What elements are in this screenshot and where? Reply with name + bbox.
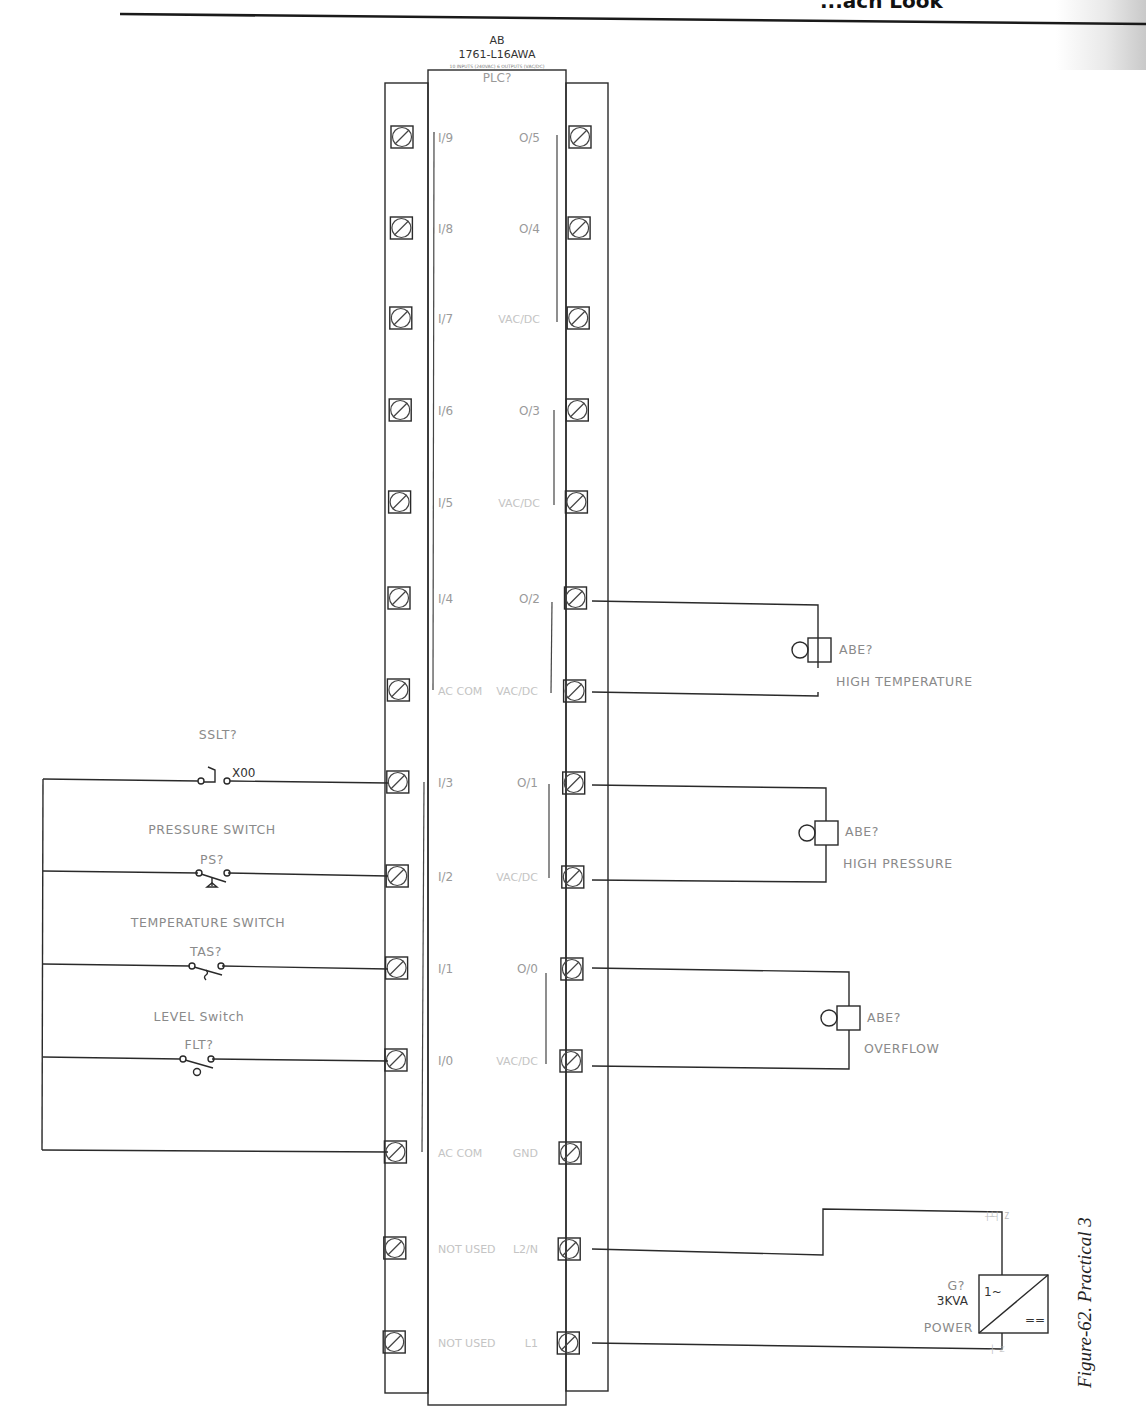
selector-switch-icon <box>204 767 215 782</box>
right-terminal-screw-icon <box>566 399 588 421</box>
input-temperature-switch: TEMPERATURE SWITCH TAS? <box>130 915 286 980</box>
output-overflow: ABE? OVERFLOW <box>592 968 939 1069</box>
left-terminal-screw-icon <box>391 126 413 148</box>
output-pin-label: O/3 <box>519 404 540 418</box>
pressure-switch-title: PRESSURE SWITCH <box>148 822 276 837</box>
alarm-tag: ABE? <box>845 824 879 839</box>
output-pin-label: VAC/DC <box>496 685 538 698</box>
figure-caption: Figure-62. Practical 3 <box>1074 1217 1095 1389</box>
right-terminal-screw-icon <box>559 1142 581 1164</box>
input-pin-label: I/1 <box>438 962 453 976</box>
terminals: I/9O/5I/8O/4I/7VAC/DCI/6O/3I/5VAC/DCI/4O… <box>383 126 591 1354</box>
input-pin-label: I/8 <box>438 222 453 236</box>
left-terminal-screw-icon <box>386 865 408 887</box>
left-terminal-screw-icon <box>388 587 410 609</box>
alarm-tag: ABE? <box>867 1010 901 1025</box>
input-pin-label: NOT USED <box>438 1337 496 1350</box>
input-pin-label: I/6 <box>438 404 453 418</box>
output-pin-label: VAC/DC <box>496 1055 538 1068</box>
ac-com-wire <box>42 1150 388 1152</box>
alarm-box-icon <box>837 1006 860 1030</box>
temperature-switch-tag: TAS? <box>189 944 222 959</box>
right-terminal-screw-icon <box>569 126 591 148</box>
power-supply: 1~ == G? 3KVA POWER ┼┴┤ Z ┼ ℤ <box>592 1209 1048 1354</box>
input-pin-label: I/9 <box>438 131 453 145</box>
temperature-switch-icon <box>194 967 222 975</box>
output-pin-label: O/1 <box>517 776 538 790</box>
input-pin-label: I/0 <box>438 1054 453 1068</box>
output-pin-label: O/0 <box>517 962 538 976</box>
alarm-label: HIGH PRESSURE <box>843 856 953 871</box>
alarm-label: HIGH TEMPERATURE <box>836 674 973 689</box>
power-tag: G? <box>947 1278 965 1293</box>
output-pin-label: L1 <box>525 1337 538 1350</box>
alarm-box-icon <box>815 821 838 845</box>
input-pressure-switch: PRESSURE SWITCH PS? <box>148 822 276 887</box>
plc-model: 1761-L16AWA <box>459 48 536 61</box>
ac-symbol: 1~ <box>984 1285 1002 1299</box>
plc-brand: AB <box>489 34 504 47</box>
left-terminal-screw-icon <box>389 491 411 513</box>
right-terminal-screw-icon <box>565 587 587 609</box>
level-switch-title: LEVEL Switch <box>154 1009 245 1024</box>
alarm-label: OVERFLOW <box>864 1041 939 1056</box>
plc-wiring-diagram: ...ach Look AB 1761-L16AWA 10 INPUTS (24… <box>0 0 1146 1423</box>
output-pin-label: VAC/DC <box>498 313 540 326</box>
terminal-mark-top: ┼┴┤ Z <box>984 1211 1009 1221</box>
right-terminal-screw-icon <box>564 680 586 702</box>
left-terminal-screw-icon <box>390 307 412 329</box>
right-terminal-screw-icon <box>567 307 589 329</box>
selector-switch-title: SSLT? <box>199 727 237 742</box>
input-pin-label: I/5 <box>438 496 453 510</box>
temperature-switch-title: TEMPERATURE SWITCH <box>130 915 286 930</box>
left-terminal-screw-icon <box>387 679 409 701</box>
plc-body <box>385 70 608 1405</box>
level-switch-tag: FLT? <box>184 1037 213 1052</box>
left-terminal-screw-icon <box>383 1331 405 1353</box>
input-bus-lower <box>422 782 424 1152</box>
output-high-pressure: ABE? HIGH PRESSURE <box>592 785 953 882</box>
alarm-lamp-icon <box>799 825 815 841</box>
output-pin-label: O/5 <box>519 131 540 145</box>
terminal-mark-bottom: ┼ ℤ <box>989 1344 1005 1354</box>
output-pin-label: VAC/DC <box>496 871 538 884</box>
pressure-switch-tag: PS? <box>200 852 224 867</box>
alarm-box-icon <box>808 638 831 662</box>
right-terminal-strip <box>566 83 608 1391</box>
plc-description: 10 INPUTS (240VAC) 6 OUTPUTS (VAC/DC) <box>450 64 545 69</box>
plc-header: AB 1761-L16AWA 10 INPUTS (240VAC) 6 OUTP… <box>450 34 545 85</box>
output-pin-label: GND <box>513 1147 538 1160</box>
power-rating: 3KVA <box>937 1294 969 1308</box>
input-pin-label: I/3 <box>438 776 453 790</box>
input-pin-label: I/4 <box>438 592 453 606</box>
right-terminal-screw-icon <box>561 958 583 980</box>
output-bus-02 <box>551 602 552 693</box>
alarm-tag: ABE? <box>839 642 873 657</box>
output-pin-label: O/4 <box>519 222 540 236</box>
left-terminal-screw-icon <box>387 771 409 793</box>
alarm-lamp-icon <box>792 642 808 658</box>
pressure-switch-icon <box>201 874 226 882</box>
right-terminal-screw-icon <box>568 217 590 239</box>
header-fragment: ...ach Look <box>820 0 944 13</box>
left-terminal-strip <box>385 83 428 1393</box>
left-terminal-screw-icon <box>384 1237 406 1259</box>
right-terminal-screw-icon <box>560 1050 582 1072</box>
right-terminal-screw-icon <box>558 1238 580 1260</box>
left-terminal-screw-icon <box>390 217 412 239</box>
left-terminal-screw-icon <box>385 1049 407 1071</box>
right-terminal-screw-icon <box>562 866 584 888</box>
right-terminal-screw-icon <box>557 1332 579 1354</box>
output-pin-label: VAC/DC <box>498 497 540 510</box>
input-level-switch: LEVEL Switch FLT? <box>154 1009 245 1076</box>
output-high-temperature: ABE? HIGH TEMPERATURE <box>592 601 973 696</box>
header-rule <box>120 14 1146 24</box>
input-pin-label: I/7 <box>438 312 453 326</box>
output-pin-label: O/2 <box>519 592 540 606</box>
left-terminal-screw-icon <box>386 957 408 979</box>
alarm-lamp-icon <box>821 1010 837 1026</box>
input-pin-label: AC COM <box>438 1147 482 1160</box>
selector-switch-tag: X00 <box>232 766 256 780</box>
right-terminal-screw-icon <box>565 491 587 513</box>
input-selector-switch: SSLT? X00 <box>198 727 256 784</box>
